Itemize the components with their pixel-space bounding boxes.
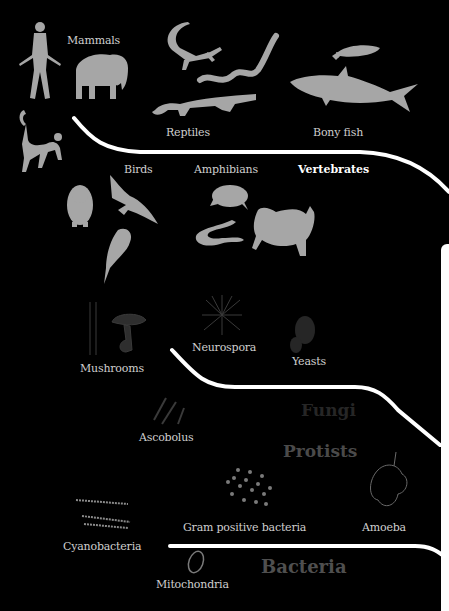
mitochondria-icon	[186, 549, 207, 574]
label-birds: Birds	[124, 163, 153, 176]
amoeba-icon	[371, 452, 407, 506]
group-bacteria: Bacteria	[261, 556, 347, 577]
label-gram-positive-bacteria: Gram positive bacteria	[183, 521, 306, 534]
cyanobacteria-icon	[76, 500, 130, 528]
mushroom-icon	[90, 302, 146, 355]
label-ascobolus: Ascobolus	[139, 431, 193, 444]
tree-of-life-diagram: Mammals Reptiles Bony fish Birds Amphibi…	[0, 0, 449, 611]
micro-silhouettes	[0, 0, 449, 611]
group-protists: Protists	[283, 441, 357, 461]
neurospora-icon	[202, 295, 242, 335]
label-amoeba: Amoeba	[362, 521, 406, 534]
label-reptiles: Reptiles	[166, 126, 210, 139]
label-amphibians: Amphibians	[194, 163, 258, 176]
yeast-icon	[290, 316, 315, 353]
group-vertebrates: Vertebrates	[298, 163, 369, 176]
label-bony-fish: Bony fish	[313, 126, 363, 139]
bacteria-cluster-icon	[226, 468, 272, 506]
label-mushrooms: Mushrooms	[80, 362, 144, 375]
group-fungi: Fungi	[301, 400, 356, 420]
ascobolus-icon	[154, 398, 184, 424]
label-neurospora: Neurospora	[192, 341, 256, 354]
label-mammals: Mammals	[67, 34, 120, 47]
label-yeasts: Yeasts	[292, 355, 326, 368]
label-cyanobacteria: Cyanobacteria	[63, 540, 141, 553]
label-mitochondria: Mitochondria	[156, 578, 229, 591]
